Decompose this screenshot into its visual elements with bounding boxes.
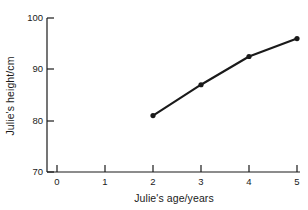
y-tick-label-90: 90	[32, 63, 43, 74]
x-tick-label-5: 5	[294, 176, 299, 187]
y-tick-label-100: 100	[27, 12, 43, 23]
data-point-markers	[150, 36, 299, 118]
y-tick-label-70: 70	[32, 166, 43, 177]
data-point	[294, 36, 299, 41]
x-tick-label-2: 2	[150, 176, 155, 187]
y-axis-ticks	[47, 18, 54, 172]
x-tick-label-3: 3	[198, 176, 203, 187]
x-axis-title: Julie's age/years	[134, 192, 214, 204]
data-line-julies-height	[153, 39, 297, 116]
y-axis-tick-labels: 100 90 80 70	[27, 12, 43, 177]
chart-canvas: 100 90 80 70 0 1 2 3 4 5 Julie's age/yea…	[0, 0, 308, 210]
x-tick-label-1: 1	[102, 176, 107, 187]
x-axis-tick-labels: 0 1 2 3 4 5	[54, 176, 299, 187]
data-point	[150, 113, 155, 118]
x-tick-label-4: 4	[246, 176, 251, 187]
data-point	[246, 54, 251, 59]
x-tick-label-0: 0	[54, 176, 59, 187]
y-tick-label-80: 80	[32, 115, 43, 126]
data-point	[198, 82, 203, 87]
x-axis-ticks	[57, 165, 297, 172]
line-chart: 100 90 80 70 0 1 2 3 4 5 Julie's age/yea…	[0, 0, 308, 210]
y-axis-title: Julie's height/cm	[4, 56, 16, 135]
